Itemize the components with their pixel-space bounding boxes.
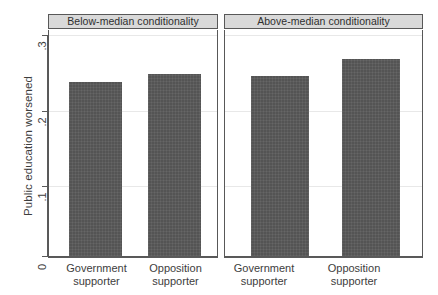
panel-header-below-median: Below-median conditionality: [48, 14, 218, 29]
y-axis-label: Public education worsened: [22, 31, 34, 261]
y-tick-label-0: 0: [36, 257, 48, 277]
y-tick-label-1: .1: [36, 187, 48, 207]
bar-above-median-opposition: [342, 59, 400, 256]
gridline-3: [225, 35, 422, 36]
panel-header-above-median: Above-median conditionality: [224, 14, 423, 29]
bar-below-median-government: [69, 82, 122, 256]
panel-below-median: Below-median conditionality: [48, 14, 218, 257]
y-tick-label-2: .2: [36, 112, 48, 132]
panel-plot-area-below-median: [48, 30, 218, 257]
x-axis-line-below-median: [48, 257, 218, 258]
y-tick-label-3: .3: [36, 36, 48, 56]
bar-below-median-opposition: [148, 74, 201, 256]
x-tick-label-above-median-government: Government supporter: [217, 262, 311, 288]
x-tick-label-above-median-opposition: Opposition supporter: [310, 262, 398, 288]
panel-above-median: Above-median conditionality: [224, 14, 423, 257]
bar-chart-figure: Public education worsened .3 .2 .1 0 Bel…: [0, 0, 438, 295]
panel-plot-area-above-median: [224, 30, 423, 257]
gridline-3: [49, 35, 217, 36]
x-tick-label-below-median-government: Government supporter: [58, 262, 135, 288]
bar-above-median-government: [251, 76, 309, 256]
x-axis-line-above-median: [224, 257, 423, 258]
x-tick-label-below-median-opposition: Opposition supporter: [137, 262, 214, 288]
